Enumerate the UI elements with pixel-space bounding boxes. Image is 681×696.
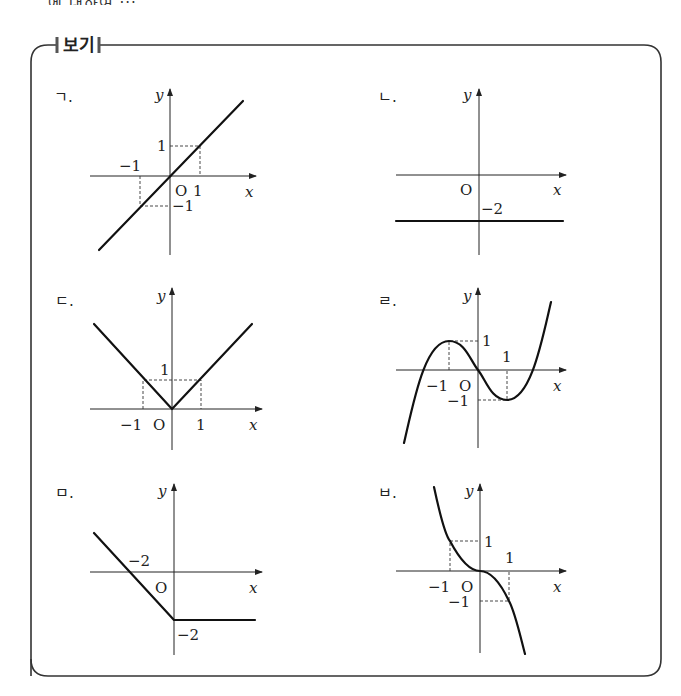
- x-axis-label: x: [553, 377, 562, 395]
- tick-label: −2: [481, 200, 503, 218]
- x-axis-label: x: [553, 578, 562, 596]
- tick-label: 1: [157, 137, 167, 155]
- graph-d: ㄹ. y x 1 1 −1 O −1: [378, 287, 566, 448]
- tick-label: −1: [119, 157, 141, 175]
- tick-label: −1: [428, 578, 450, 596]
- graph-curve: [94, 324, 252, 409]
- box-title: 보기: [63, 35, 95, 55]
- example-box: 보기 ㄱ. y x O 1 1 −1 −1 ㄴ. y x O −2 ㄷ. y x…: [0, 0, 681, 696]
- graph-label: ㅁ.: [55, 484, 74, 502]
- box-frame: 보기: [31, 35, 661, 676]
- graph-label: ㄱ.: [54, 88, 73, 106]
- graph-f: ㅂ. y x 1 1 −1 O −1: [378, 482, 566, 654]
- graph-label: ㄷ.: [55, 292, 74, 310]
- origin-label: O: [155, 579, 167, 597]
- x-axis-label: x: [245, 183, 254, 201]
- tick-label: −2: [128, 552, 150, 570]
- graph-e: ㅁ. y x −2 O −2: [55, 482, 262, 655]
- x-axis-label: x: [249, 579, 258, 597]
- graph-b: ㄴ. y x O −2: [378, 86, 566, 255]
- tick-label: −2: [177, 626, 199, 644]
- guide-line: [449, 341, 478, 370]
- y-axis-label: y: [464, 482, 474, 500]
- tick-label: 1: [502, 348, 512, 366]
- tick-label: 1: [505, 549, 515, 567]
- tick-label: 1: [193, 182, 203, 200]
- graph-label: ㅂ.: [378, 484, 397, 502]
- guide-line: [450, 541, 480, 571]
- graph-label: ㄴ.: [378, 88, 397, 106]
- tick-label: 1: [196, 416, 206, 434]
- graph-c: ㄷ. y x 1 −1 O 1: [55, 287, 262, 450]
- y-axis-label: y: [462, 86, 472, 104]
- tick-label: −1: [120, 416, 142, 434]
- y-axis-label: y: [462, 287, 472, 305]
- y-axis-label: y: [157, 482, 167, 500]
- tick-label: 1: [160, 361, 170, 379]
- y-axis-label: y: [154, 86, 164, 104]
- x-axis-label: x: [249, 416, 258, 434]
- tick-label: −1: [172, 197, 194, 215]
- guide-line: [480, 571, 509, 601]
- origin-label: O: [153, 416, 165, 434]
- tick-label: −1: [448, 593, 470, 611]
- tick-label: 1: [482, 332, 492, 350]
- origin-label: O: [460, 181, 472, 199]
- graph-label: ㄹ.: [378, 292, 397, 310]
- tick-label: −1: [426, 377, 448, 395]
- guide-line: [478, 370, 507, 400]
- tick-label: 1: [484, 533, 494, 551]
- tick-label: −1: [447, 392, 469, 410]
- x-axis-label: x: [553, 181, 562, 199]
- graph-a: ㄱ. y x O 1 1 −1 −1: [54, 86, 256, 255]
- y-axis-label: y: [156, 287, 166, 305]
